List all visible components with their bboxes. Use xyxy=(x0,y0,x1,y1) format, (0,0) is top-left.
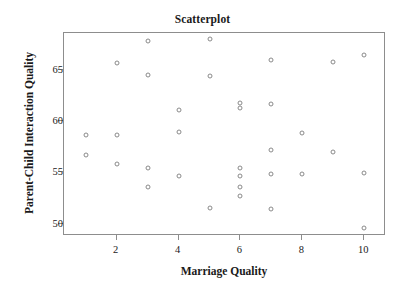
data-point xyxy=(176,173,181,178)
data-point xyxy=(331,149,336,154)
data-point xyxy=(145,73,150,78)
data-point xyxy=(207,74,212,79)
data-point xyxy=(83,132,88,137)
data-point xyxy=(300,172,305,177)
x-tick-mark xyxy=(301,235,302,240)
scatterplot-figure: Scatterplot Parent-Child Interaction Qua… xyxy=(0,0,405,296)
x-tick-label: 6 xyxy=(224,244,254,255)
data-point xyxy=(269,172,274,177)
data-point xyxy=(238,105,243,110)
data-point xyxy=(114,132,119,137)
data-point xyxy=(238,173,243,178)
x-tick-mark xyxy=(178,235,179,240)
data-point xyxy=(114,162,119,167)
data-point xyxy=(207,37,212,42)
data-point xyxy=(269,147,274,152)
x-tick-mark xyxy=(363,235,364,240)
data-point xyxy=(176,130,181,135)
x-tick-mark xyxy=(116,235,117,240)
data-point xyxy=(238,194,243,199)
data-point xyxy=(269,57,274,62)
data-point xyxy=(269,101,274,106)
data-point xyxy=(362,171,367,176)
data-point xyxy=(145,184,150,189)
data-point xyxy=(238,166,243,171)
data-point xyxy=(176,107,181,112)
x-axis-title: Marriage Quality xyxy=(63,265,385,277)
x-tick-label: 4 xyxy=(163,244,193,255)
data-point xyxy=(331,59,336,64)
data-point xyxy=(300,131,305,136)
x-tick-label: 8 xyxy=(286,244,316,255)
x-tick-label: 10 xyxy=(348,244,378,255)
data-point xyxy=(269,207,274,212)
data-point xyxy=(238,184,243,189)
x-tick-mark xyxy=(239,235,240,240)
data-point xyxy=(362,52,367,57)
data-point xyxy=(145,39,150,44)
data-point xyxy=(207,206,212,211)
data-point xyxy=(362,225,367,230)
data-point xyxy=(83,153,88,158)
plot-area xyxy=(63,32,385,235)
data-point xyxy=(114,60,119,65)
data-point xyxy=(145,166,150,171)
x-tick-label: 2 xyxy=(101,244,131,255)
